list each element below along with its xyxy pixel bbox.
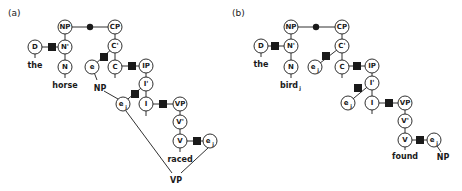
node-v-bar: V' xyxy=(398,114,412,128)
node-e-j-spec: ej xyxy=(308,60,322,74)
word-raced: raced xyxy=(167,155,193,164)
word-bird: bird xyxy=(280,81,298,90)
svg-text:N': N' xyxy=(287,42,295,50)
connector-square xyxy=(354,84,362,92)
node-n-bar: N' xyxy=(284,39,298,53)
node-ip: IP xyxy=(139,59,153,73)
connector-square xyxy=(48,43,56,51)
connector-dot xyxy=(87,24,93,30)
svg-text:V: V xyxy=(177,137,183,145)
node-i: I xyxy=(365,96,379,110)
svg-text:e: e xyxy=(430,136,435,144)
connector-square xyxy=(322,52,330,60)
connector-square xyxy=(131,90,139,98)
svg-text:j: j xyxy=(349,103,352,110)
node-c-bar: C' xyxy=(335,39,349,53)
svg-text:e: e xyxy=(90,63,95,71)
svg-text:NP: NP xyxy=(60,23,71,31)
connector-square xyxy=(353,62,361,70)
svg-text:N: N xyxy=(62,63,68,71)
node-d: D xyxy=(28,40,42,54)
connector-square xyxy=(385,99,393,107)
node-e-j-object: ej xyxy=(427,133,441,147)
node-e-j-subject: ej xyxy=(341,96,355,110)
node-v: V xyxy=(173,134,187,148)
node-cp: CP xyxy=(335,20,349,34)
svg-text:e: e xyxy=(119,100,124,108)
svg-text:C: C xyxy=(339,63,344,71)
node-v: V xyxy=(398,133,412,147)
node-c: C xyxy=(335,60,349,74)
svg-text:IP: IP xyxy=(142,62,150,70)
word-the: the xyxy=(254,60,270,69)
svg-text:V: V xyxy=(402,136,408,144)
node-vp: VP xyxy=(173,97,187,111)
svg-text:I': I' xyxy=(370,79,375,87)
label-np: NP xyxy=(437,153,450,162)
connector-square xyxy=(193,137,201,145)
node-e-j-object: ej xyxy=(203,134,217,148)
node-np: NP xyxy=(284,20,298,34)
svg-text:e: e xyxy=(206,137,211,145)
connector-square xyxy=(100,53,108,61)
svg-text:CP: CP xyxy=(337,23,347,31)
node-n: N xyxy=(58,60,72,74)
connector-square xyxy=(128,62,136,70)
panel-b: (b) NP CP D N' C' N ej C I xyxy=(232,8,449,162)
node-i-bar: I' xyxy=(139,77,153,91)
svg-text:j: j xyxy=(124,104,127,111)
label-vp: VP xyxy=(170,176,182,185)
label-np: NP xyxy=(94,84,107,93)
word-found: found xyxy=(392,152,418,161)
svg-text:N': N' xyxy=(61,43,69,51)
connector-dot xyxy=(313,24,319,30)
panel-b-label: (b) xyxy=(232,8,245,18)
connector-square xyxy=(159,100,167,108)
svg-text:j: j xyxy=(435,140,438,147)
node-n-bar: N' xyxy=(58,40,72,54)
svg-text:NP: NP xyxy=(286,23,297,31)
node-i: I xyxy=(139,97,153,111)
panel-a-label: (a) xyxy=(8,8,21,18)
node-i-bar: I' xyxy=(365,76,379,90)
svg-text:I: I xyxy=(145,100,148,108)
panel-a: (a) NP CP D N' C' N xyxy=(8,8,217,185)
svg-text:e: e xyxy=(311,63,316,71)
word-the: the xyxy=(28,61,44,70)
svg-text:I': I' xyxy=(144,80,149,88)
node-d: D xyxy=(254,39,268,53)
svg-text:VP: VP xyxy=(400,99,411,107)
svg-text:D: D xyxy=(258,42,264,50)
node-v-bar: V' xyxy=(173,115,187,129)
svg-text:j: j xyxy=(211,141,214,148)
svg-text:D: D xyxy=(32,43,38,51)
svg-text:j: j xyxy=(316,67,319,74)
node-ip: IP xyxy=(365,59,379,73)
connector-square xyxy=(416,136,424,144)
svg-text:CP: CP xyxy=(110,23,120,31)
svg-text:VP: VP xyxy=(175,100,186,108)
svg-text:C': C' xyxy=(111,42,118,50)
node-e: e xyxy=(85,60,99,74)
svg-text:N: N xyxy=(288,63,294,71)
svg-text:I: I xyxy=(371,99,374,107)
node-n: N xyxy=(284,60,298,74)
node-vp: VP xyxy=(398,96,412,110)
node-c-bar: C' xyxy=(108,39,122,53)
svg-text:V': V' xyxy=(176,118,184,126)
word-horse: horse xyxy=(52,81,78,90)
connector-square xyxy=(271,42,279,50)
word-bird-subscript: j xyxy=(298,85,301,92)
svg-text:IP: IP xyxy=(368,62,376,70)
node-cp: CP xyxy=(108,20,122,34)
svg-text:e: e xyxy=(344,99,349,107)
node-c: C xyxy=(108,60,122,74)
syntax-tree-diagram: (a) NP CP D N' C' N xyxy=(0,0,462,191)
node-np: NP xyxy=(58,20,72,34)
svg-text:C': C' xyxy=(338,42,345,50)
svg-text:V': V' xyxy=(401,117,409,125)
node-e-j: ej xyxy=(116,97,130,111)
svg-text:C: C xyxy=(112,63,117,71)
